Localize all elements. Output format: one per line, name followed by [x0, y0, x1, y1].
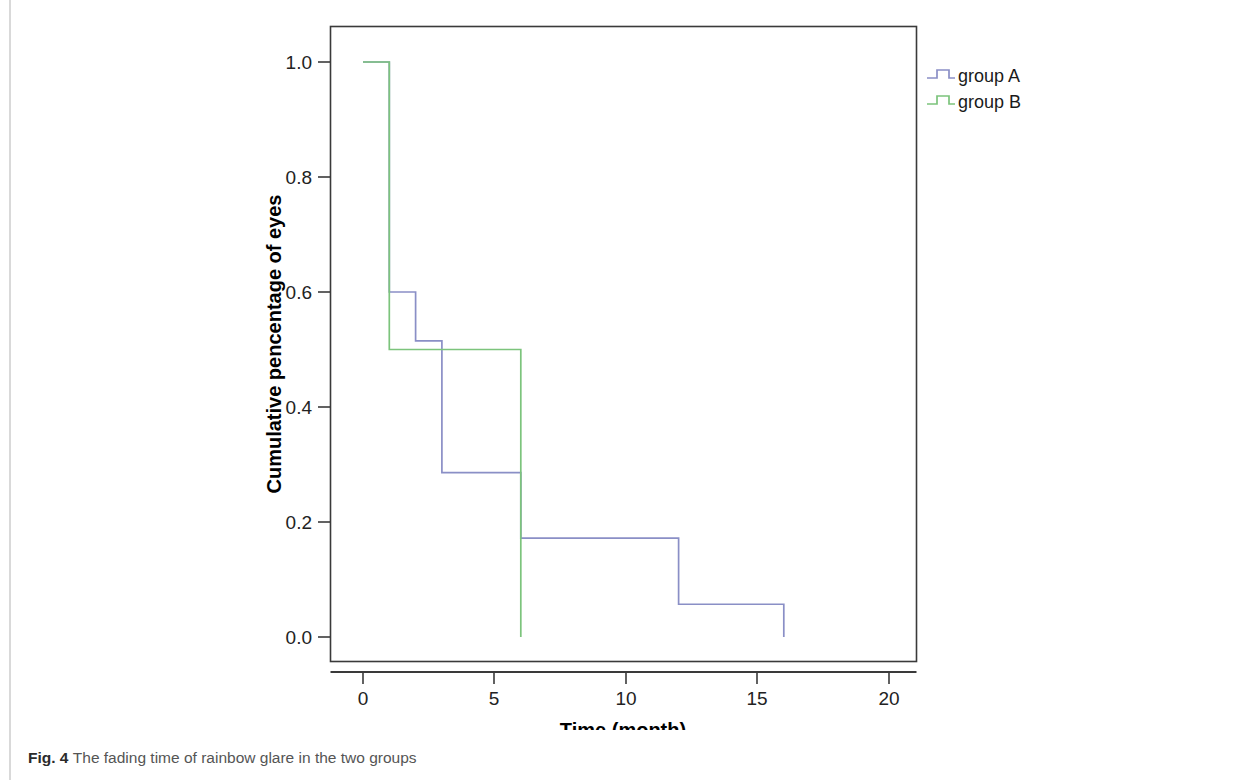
y-tick-label-0.4: 0.4: [286, 397, 313, 418]
x-axis-tick-labels: 0 5 10 15 20: [358, 688, 900, 709]
x-axis-ticks: [363, 672, 889, 684]
legend-swatch-group-b: [927, 96, 955, 104]
y-axis-ticks: [318, 62, 331, 637]
survival-curve-chart: 1.0 0.8 0.6 0.4 0.2 0.0 0 5 10: [0, 0, 1120, 730]
x-tick-label-10: 10: [615, 688, 636, 709]
x-tick-label-5: 5: [489, 688, 500, 709]
y-tick-label-0.2: 0.2: [286, 512, 312, 533]
x-tick-label-15: 15: [746, 688, 767, 709]
chart-legend: group A group B: [927, 66, 1021, 112]
y-tick-label-0.6: 0.6: [286, 282, 312, 303]
x-tick-label-0: 0: [358, 688, 369, 709]
legend-label-group-b: group B: [958, 92, 1021, 112]
y-axis-tick-labels: 1.0 0.8 0.6 0.4 0.2 0.0: [286, 52, 313, 648]
y-axis-title: Cumulative pencentage of eyes: [263, 195, 285, 494]
x-axis-title: Time (month): [560, 719, 686, 730]
legend-label-group-a: group A: [958, 66, 1020, 86]
chart-plot-area: 1.0 0.8 0.6 0.4 0.2 0.0 0 5 10: [0, 0, 1120, 730]
x-tick-label-20: 20: [878, 688, 899, 709]
figure-caption: Fig. 4 The fading time of rainbow glare …: [28, 748, 1128, 768]
figure-caption-label: Fig. 4: [28, 749, 68, 766]
plot-frame: [331, 27, 917, 662]
y-tick-label-0.8: 0.8: [286, 167, 312, 188]
legend-entry-group-a[interactable]: group A: [927, 66, 1020, 86]
legend-swatch-group-a: [927, 70, 955, 78]
y-tick-label-0.0: 0.0: [286, 627, 312, 648]
figure-root: 1.0 0.8 0.6 0.4 0.2 0.0 0 5 10: [0, 0, 1259, 780]
legend-entry-group-b[interactable]: group B: [927, 92, 1021, 112]
figure-caption-text: The fading time of rainbow glare in the …: [73, 749, 417, 766]
y-tick-label-1.0: 1.0: [286, 52, 312, 73]
